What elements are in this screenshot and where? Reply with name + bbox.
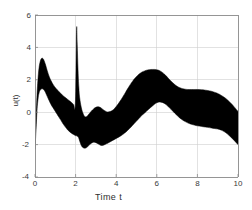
x-tick-label-10: 10 <box>230 179 246 188</box>
x-tick-label-6: 6 <box>149 179 165 188</box>
x-tick-label-0: 0 <box>27 179 43 188</box>
y-axis-label: u(t) <box>11 81 20 121</box>
y-tick-label-4: 4 <box>17 43 31 52</box>
y-tick-label-6: 6 <box>17 11 31 20</box>
x-tick-label-4: 4 <box>108 179 124 188</box>
x-axis-label: Time t <box>95 192 122 202</box>
x-tick-label-8: 8 <box>189 179 205 188</box>
x-tick-label-2: 2 <box>68 179 84 188</box>
y-tick-label-neg2: -2 <box>15 140 29 149</box>
figure-canvas: 6 4 2 0 -2 -4 0 2 4 6 8 10 Time t u(t) <box>0 0 252 210</box>
